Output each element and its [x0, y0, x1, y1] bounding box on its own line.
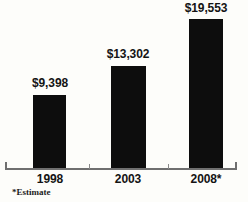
- bar-value-label-2003: $13,302: [94, 47, 162, 61]
- x-axis-tick-1: [89, 164, 90, 169]
- bar-value-label-1998: $9,398: [16, 76, 84, 90]
- x-axis-label-2008: 2008*: [172, 172, 240, 186]
- plot-area: $9,398 $13,302 $19,553 1998 2003 2008* *…: [0, 0, 248, 202]
- bar-chart: $9,398 $13,302 $19,553 1998 2003 2008* *…: [0, 0, 248, 202]
- x-axis-label-1998: 1998: [16, 172, 84, 186]
- footnote-estimate: *Estimate: [12, 187, 51, 197]
- x-axis-line: [5, 168, 237, 170]
- bar-value-label-2008: $19,553: [172, 1, 240, 15]
- bar-2008: [189, 19, 223, 168]
- x-axis-label-2003: 2003: [94, 172, 162, 186]
- x-axis-tick-2: [168, 164, 169, 169]
- x-axis-left-cap: [5, 162, 7, 170]
- bar-1998: [33, 95, 66, 168]
- x-axis-right-cap: [235, 162, 237, 170]
- bar-2003: [111, 66, 146, 168]
